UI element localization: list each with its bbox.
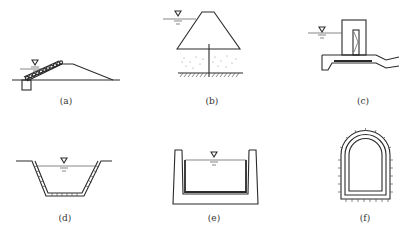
panel-b: (b) (163, 11, 243, 106)
impermeable-base (178, 73, 243, 77)
riprap (24, 61, 63, 81)
panel-e: (e) (173, 150, 258, 223)
panel-c: (c) (308, 20, 399, 106)
figure-canvas: (a) (b) (0, 0, 409, 236)
water-level-icon (318, 27, 326, 38)
slab-top (322, 55, 399, 60)
panel-label-d: (d) (59, 213, 72, 223)
panel-label-a: (a) (60, 96, 72, 106)
toe-trench (22, 80, 31, 90)
tunnel-lining-2 (349, 139, 382, 191)
slab-bottom (322, 55, 399, 70)
panel-f: (f) (338, 128, 393, 223)
water-level-icon (60, 158, 68, 171)
tunnel-outer (341, 131, 390, 200)
tunnel-lining-1 (345, 135, 386, 196)
panel-label-b: (b) (206, 96, 219, 106)
panel-label-e: (e) (208, 213, 220, 223)
panel-label-c: (c) (357, 96, 369, 106)
flume-inner (182, 150, 249, 194)
intake-tower (342, 20, 366, 55)
dam-body (177, 12, 240, 49)
panel-label-f: (f) (360, 213, 370, 223)
panel-a: (a) (12, 60, 120, 106)
water-level-icon (210, 152, 218, 165)
panel-d: (d) (16, 158, 112, 223)
water-level-icon (174, 11, 182, 24)
